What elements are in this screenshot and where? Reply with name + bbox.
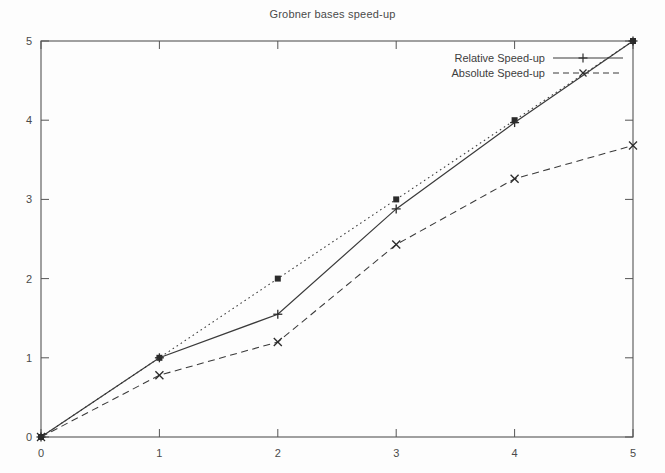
x-tick-label-5: 5 (630, 447, 636, 459)
data-point-marker-cross-icon (274, 338, 282, 346)
y-tick-label-3: 3 (26, 193, 32, 205)
x-tick-label-3: 3 (393, 447, 399, 459)
data-point-marker-cross-icon (511, 175, 519, 183)
y-tick-labels: 0 1 2 3 4 5 (26, 35, 32, 443)
data-point-marker-plus-icon (510, 118, 519, 127)
legend-label-absolute-speed-up: Absolute Speed-up (451, 67, 545, 79)
data-point-marker-filled-square-icon (393, 196, 399, 202)
series-line (41, 146, 633, 437)
series-absolute-speed-up (37, 142, 637, 441)
data-point-marker-plus-icon (629, 37, 638, 46)
data-point-marker-cross-icon (155, 371, 163, 379)
x-tick-labels: 0 1 2 3 4 5 (38, 447, 636, 459)
data-series-layer (37, 37, 638, 442)
x-tick-label-1: 1 (156, 447, 162, 459)
data-point-marker-plus-icon (155, 353, 164, 362)
y-tick-label-2: 2 (26, 273, 32, 285)
y-tick-label-5: 5 (26, 35, 32, 47)
legend-label-relative-speed-up: Relative Speed-up (454, 52, 545, 64)
x-tick-label-2: 2 (275, 447, 281, 459)
y-tick-label-0: 0 (26, 431, 32, 443)
legend-marker-plus-icon (579, 54, 588, 63)
data-point-marker-filled-square-icon (275, 276, 281, 282)
chart-figure: Grobner bases speed-up (0, 0, 665, 473)
x-tick-label-4: 4 (512, 447, 518, 459)
y-tick-label-1: 1 (26, 352, 32, 364)
plot-area: 0 1 2 3 4 5 0 1 2 3 4 5 Relative Speed-u… (0, 0, 665, 473)
x-tick-label-0: 0 (38, 447, 44, 459)
y-tick-label-4: 4 (26, 114, 32, 126)
data-point-marker-cross-icon (392, 241, 400, 249)
